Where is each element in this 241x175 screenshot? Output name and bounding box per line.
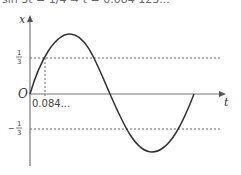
one-third-denominator: 3 — [17, 58, 21, 66]
neg-sign: − — [8, 124, 15, 133]
t-value-label: 0.084... — [32, 98, 70, 109]
sine-curve — [30, 34, 194, 152]
neg-one-third-numerator: 1 — [17, 120, 21, 128]
x-axis-label: x — [19, 13, 26, 26]
x-axis-arrow-icon — [27, 15, 33, 22]
sine-graph: x t O 1 3 − 1 3 0.084... — [0, 0, 241, 175]
origin-label: O — [18, 87, 28, 101]
one-third-numerator: 1 — [17, 49, 21, 57]
t-axis-label: t — [224, 96, 229, 109]
neg-one-third-denominator: 3 — [17, 129, 21, 137]
